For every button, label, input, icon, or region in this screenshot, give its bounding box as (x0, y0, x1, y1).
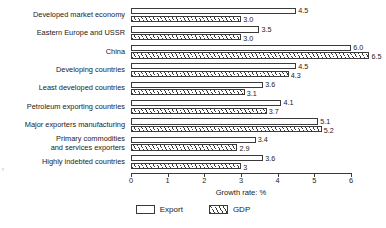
bar-group: 4.13.7 (131, 100, 351, 118)
x-axis-title: Growth rate: % (131, 188, 351, 197)
legend-swatch-gdp-icon (209, 205, 228, 214)
bar-group: 3.63 (131, 155, 351, 173)
bar-export (131, 8, 296, 14)
legend-item-gdp: GDP (209, 205, 250, 214)
category-label: Primary commoditiesand services exporter… (5, 135, 125, 151)
bar-value-gdp: 3.1 (247, 90, 257, 97)
x-axis-tick-label: 4 (276, 177, 280, 185)
bar-value-export: 3.4 (258, 136, 268, 143)
bar-export (131, 63, 296, 69)
category-label: Major exporters manufacturing (25, 121, 125, 129)
bar-gdp (131, 126, 322, 132)
bar-export (131, 45, 351, 51)
bar-value-gdp: 3 (243, 164, 247, 171)
legend-item-export: Export (136, 205, 183, 214)
bar-value-gdp: 3.0 (243, 35, 253, 42)
category-label: China (106, 48, 125, 56)
bar-gdp (131, 71, 289, 77)
bar-export (131, 100, 281, 106)
bar-group: 3.42.9 (131, 137, 351, 155)
bar-chart: Developed market economyEastern Europe a… (0, 0, 386, 228)
bar-group: 6.06.5 (131, 45, 351, 63)
bar-value-gdp: 4.3 (291, 72, 301, 79)
category-label: Least developed countries (39, 84, 125, 92)
category-label: Developed market economy (33, 11, 125, 19)
bar-value-export: 3.5 (262, 26, 272, 33)
chart-legend: Export GDP (0, 205, 386, 214)
bar-value-export: 4.1 (284, 99, 294, 106)
bar-value-export: 5.1 (320, 118, 330, 125)
bar-group: 3.53.0 (131, 26, 351, 44)
bar-value-export: 4.5 (298, 7, 308, 14)
bar-group: 3.63.1 (131, 82, 351, 100)
category-label: Developing countries (56, 66, 125, 74)
bar-gdp (131, 89, 245, 95)
bar-gdp (131, 108, 267, 114)
x-axis-tick-label: 6 (349, 177, 353, 185)
bar-value-gdp: 2.9 (240, 145, 250, 152)
bar-export (131, 82, 263, 88)
x-axis-tick-label: 1 (166, 177, 170, 185)
bar-group: 4.53.0 (131, 8, 351, 26)
bar-gdp (131, 52, 369, 58)
legend-swatch-export-icon (136, 205, 155, 214)
edge-artifact-mark: r (2, 166, 4, 172)
category-label: Eastern Europe and USSR (37, 29, 125, 37)
bar-value-gdp: 3.7 (269, 108, 279, 115)
category-label: Highly indebted countries (42, 158, 125, 166)
x-axis-tick-label: 0 (129, 177, 133, 185)
bar-value-export: 3.6 (265, 155, 275, 162)
category-label-column: Developed market economyEastern Europe a… (0, 6, 128, 172)
legend-label-export: Export (160, 205, 183, 214)
bar-value-export: 3.6 (265, 81, 275, 88)
bar-gdp (131, 34, 241, 40)
x-axis-tick-label: 3 (239, 177, 243, 185)
bar-value-gdp: 5.2 (324, 127, 334, 134)
bar-gdp (131, 144, 237, 150)
bar-value-gdp: 6.5 (372, 53, 382, 60)
bar-value-export: 4.5 (298, 63, 308, 70)
bar-export (131, 155, 263, 161)
plot-area: 4.53.03.53.06.06.54.54.33.63.14.13.75.15… (131, 6, 351, 172)
bar-gdp (131, 16, 241, 22)
bar-value-export: 6.0 (353, 44, 363, 51)
bar-export (131, 26, 259, 32)
x-axis-tick-label: 2 (202, 177, 206, 185)
legend-label-gdp: GDP (233, 205, 250, 214)
bar-export (131, 137, 256, 143)
bar-export (131, 118, 318, 124)
category-label: Petroleum exporting countries (27, 103, 125, 111)
x-axis-tick-label: 5 (312, 177, 316, 185)
bar-value-gdp: 3.0 (243, 16, 253, 23)
bar-group: 5.15.2 (131, 118, 351, 136)
bar-group: 4.54.3 (131, 63, 351, 81)
bar-gdp (131, 163, 241, 169)
